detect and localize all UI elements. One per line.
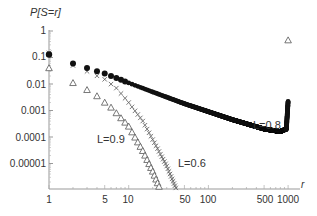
x-tick-label: 10	[122, 194, 134, 205]
x-tick-label: 1	[46, 194, 52, 205]
x-tick-label: 1000	[277, 194, 300, 205]
x-tick-labels: 1 5 10 50 100 500 1000	[46, 194, 299, 205]
annotation-l06: L=0.6	[178, 157, 206, 169]
y-tick-label: 0.1	[32, 51, 46, 62]
y-tick-label: 0.00001	[10, 158, 47, 169]
annotation-l08: L=0.8	[253, 119, 281, 131]
y-axis-label: P[S=r]	[30, 6, 62, 18]
y-tick-label: 1	[40, 25, 46, 36]
y-tick-labels: 1 0.1 0.01 0.001 0.0001 0.00001	[10, 25, 47, 169]
x-tick-label: 500	[257, 194, 274, 205]
x-axis-label: r	[301, 179, 305, 190]
series-l09-triangles	[46, 37, 292, 189]
x-tick-label: 100	[200, 194, 217, 205]
y-tick-label: 0.001	[21, 105, 46, 116]
y-tick-label: 0.01	[27, 79, 47, 90]
x-tick-marks	[49, 185, 288, 189]
series-l06-crosses	[47, 51, 178, 190]
chart: P[S=r] r 1 0.1 0.01 0.001 0.0001 0.00001…	[0, 0, 317, 216]
x-tick-label: 50	[179, 194, 191, 205]
annotation-l09: L=0.9	[97, 133, 125, 145]
y-tick-label: 0.0001	[15, 132, 46, 143]
axes	[49, 30, 300, 189]
x-tick-label: 5	[102, 194, 108, 205]
